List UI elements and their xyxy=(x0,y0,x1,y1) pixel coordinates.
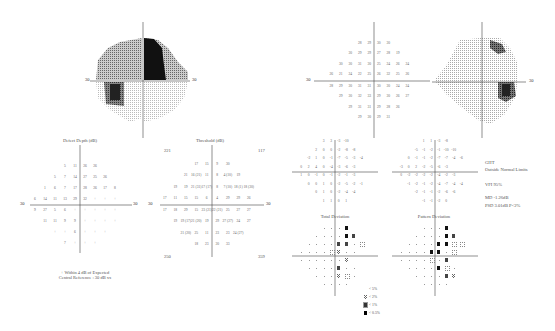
grid-value: 11 xyxy=(73,165,76,169)
grid-value: -1 xyxy=(422,157,425,161)
grid-value: 31 xyxy=(367,85,371,89)
grid-value: 0 xyxy=(308,183,310,187)
normal-dot-icon xyxy=(331,244,332,245)
p2-symbol-icon xyxy=(337,274,340,278)
legend-label: < 0.5% xyxy=(369,311,380,315)
grid-value: -3 xyxy=(400,166,403,170)
grid-value: 1 xyxy=(345,200,347,204)
grid-value: + xyxy=(64,231,66,235)
grid-value: + xyxy=(84,220,86,224)
grid-value: 29 xyxy=(236,197,240,201)
p05-symbol-icon xyxy=(430,250,433,254)
normal-dot-icon xyxy=(439,276,440,277)
grid-value: 7 (10) xyxy=(223,186,232,190)
grid-value: 26 xyxy=(247,197,251,201)
grid-value: 19 xyxy=(173,220,177,224)
grid-value: 17 xyxy=(73,187,77,191)
legend-label: < 1% xyxy=(369,303,377,307)
grid-value: 22 xyxy=(358,73,362,77)
axis-label-right: 30 xyxy=(192,77,197,82)
grid-value: -2 xyxy=(352,183,355,187)
grid-value: 17 (17) xyxy=(202,186,212,190)
grid-value: + xyxy=(84,231,86,235)
grid-value: 29 xyxy=(348,106,352,110)
threshold-grid: 17159302116 (21)1184 (10)19191921 (31)17… xyxy=(150,135,275,265)
grid-value: 18 xyxy=(173,209,177,213)
grid-value: 15 xyxy=(194,197,198,201)
grid-value: 0 xyxy=(330,191,332,195)
normal-dot-icon xyxy=(316,244,317,245)
grid-value: 31 xyxy=(358,85,362,89)
normal-dot-icon xyxy=(301,260,302,261)
p05-symbol-icon xyxy=(437,242,440,246)
grid-value: 0 xyxy=(400,174,402,178)
normal-dot-icon xyxy=(331,276,332,277)
p05-symbol-icon xyxy=(445,242,448,246)
pdp-grid xyxy=(390,222,480,300)
grid-value: -2 xyxy=(407,174,410,178)
grid-value: 8 xyxy=(216,174,218,178)
grid-value: -2 xyxy=(430,174,433,178)
grid-value: -5 xyxy=(345,157,348,161)
normal-dot-icon xyxy=(439,284,440,285)
grid-value: 2 xyxy=(308,166,310,170)
grid-value: 26 xyxy=(83,165,87,169)
p05-symbol-icon xyxy=(437,250,440,254)
legend-item-p1: < 1% xyxy=(364,303,377,307)
grid-value: -2 xyxy=(430,149,433,153)
grid-value: 5 xyxy=(54,176,56,180)
grid-value: -5 xyxy=(415,149,418,153)
grid-value: -2 xyxy=(430,183,433,187)
greyscale-map-right xyxy=(430,20,555,140)
grid-value: 26 xyxy=(93,187,97,191)
grid-value: 26 xyxy=(405,73,409,77)
p2-symbol-icon xyxy=(452,274,455,278)
normal-dot-icon xyxy=(439,228,440,229)
grid-value: 19 xyxy=(173,186,177,190)
grid-value: 16 (21) xyxy=(191,174,201,178)
grid-value: 0 xyxy=(323,149,325,153)
grid-value: -4 xyxy=(352,191,355,195)
normal-dot-icon xyxy=(439,236,440,237)
grid-value: -6 xyxy=(460,157,463,161)
grid-value: 31 xyxy=(358,106,362,110)
grid-value: 31 xyxy=(358,63,362,67)
grid-value: 31 xyxy=(386,116,390,120)
grid-value: 25 xyxy=(226,209,230,213)
grid-value: 14 xyxy=(73,176,77,180)
grid-value: 24 xyxy=(236,220,240,224)
grid-value: 24 xyxy=(405,63,409,67)
grid-value: 1 xyxy=(423,140,425,144)
grid-value: 15 xyxy=(184,197,188,201)
p1-symbol-icon xyxy=(445,274,448,278)
grid-value: 29 xyxy=(339,85,343,89)
normal-dot-icon xyxy=(431,268,432,269)
grid-value: 30 xyxy=(367,63,371,67)
normal-dot-icon xyxy=(431,284,432,285)
normal-dot-icon xyxy=(416,244,417,245)
normal-dot-icon xyxy=(416,276,417,277)
normal-dot-icon xyxy=(324,236,325,237)
grid-value: 1 xyxy=(430,140,432,144)
p5-symbol-icon xyxy=(452,250,457,255)
grid-value: 30 xyxy=(215,243,219,247)
grid-value: -1 xyxy=(437,149,440,153)
grid-value: -3 xyxy=(452,174,455,178)
grid-value: 26 xyxy=(396,63,400,67)
p1-symbol-icon xyxy=(337,266,340,270)
grid-value: 0 xyxy=(338,200,340,204)
threshold-values-plot: 30 2829303030292927281930303130252426242… xyxy=(310,20,430,140)
grid-value: 11 xyxy=(53,220,56,224)
grid-value: 25 xyxy=(377,63,381,67)
grid-value: -4 xyxy=(437,183,440,187)
grid-value: + xyxy=(74,209,76,213)
normal-dot-icon xyxy=(354,244,355,245)
grid-value: -7 xyxy=(445,157,448,161)
grid-value: -3 xyxy=(352,157,355,161)
grid-value: 32 xyxy=(83,198,87,202)
grid-value: + xyxy=(94,198,96,202)
grid-value: -3 xyxy=(437,140,440,144)
normal-dot-icon xyxy=(431,276,432,277)
grid-value: 29 xyxy=(367,42,371,46)
normal-dot-icon xyxy=(354,276,355,277)
